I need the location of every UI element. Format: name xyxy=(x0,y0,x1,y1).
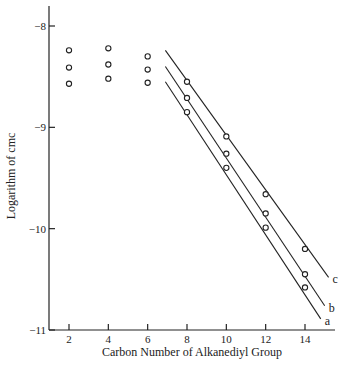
x-axis-label: Carbon Number of Alkanediyl Group xyxy=(102,345,282,359)
data-point xyxy=(224,134,229,139)
data-point xyxy=(66,65,71,70)
series-label-c: c xyxy=(333,272,338,286)
series-label-b: b xyxy=(329,301,335,315)
data-point xyxy=(263,211,268,216)
data-point xyxy=(106,76,111,81)
chart: −8−9−10−11 2468101214 cba Carbon Number … xyxy=(0,0,346,369)
x-ticks: 2468101214 xyxy=(66,324,311,345)
data-point xyxy=(66,81,71,86)
series-labels: cba xyxy=(325,272,338,328)
x-tick-label: 8 xyxy=(184,333,190,345)
data-point xyxy=(224,165,229,170)
data-point xyxy=(145,80,150,85)
data-point xyxy=(106,62,111,67)
x-tick-label: 10 xyxy=(221,333,233,345)
data-point xyxy=(145,54,150,59)
data-point xyxy=(302,246,307,251)
data-point xyxy=(184,95,189,100)
fit-line-b xyxy=(165,67,324,306)
y-tick-label: −9 xyxy=(34,121,46,133)
axes xyxy=(49,6,335,330)
y-axis-label: Logarithm of cmc xyxy=(4,133,18,220)
x-tick-label: 12 xyxy=(260,333,271,345)
x-tick-label: 6 xyxy=(145,333,151,345)
data-points xyxy=(66,46,307,290)
series-label-a: a xyxy=(325,314,331,328)
data-point xyxy=(224,151,229,156)
fit-line-a xyxy=(165,82,320,319)
data-point xyxy=(263,192,268,197)
data-point xyxy=(263,225,268,230)
fit-lines xyxy=(165,50,328,319)
y-tick-label: −8 xyxy=(34,20,46,32)
x-tick-label: 4 xyxy=(106,333,112,345)
y-ticks: −8−9−10−11 xyxy=(29,20,55,336)
data-point xyxy=(184,79,189,84)
data-point xyxy=(184,110,189,115)
fit-line-c xyxy=(165,50,328,277)
y-tick-label: −11 xyxy=(29,324,46,336)
data-point xyxy=(106,46,111,51)
x-tick-label: 2 xyxy=(66,333,72,345)
x-tick-label: 14 xyxy=(300,333,312,345)
data-point xyxy=(66,48,71,53)
data-point xyxy=(302,285,307,290)
data-point xyxy=(145,67,150,72)
data-point xyxy=(302,272,307,277)
y-tick-label: −10 xyxy=(29,223,47,235)
